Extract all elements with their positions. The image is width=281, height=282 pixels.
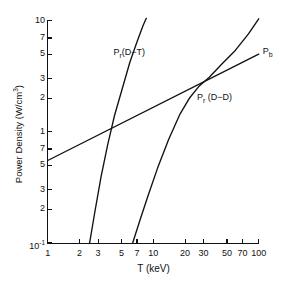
y-tick-mark [48, 209, 52, 210]
x-tick-mark [226, 239, 227, 243]
y-axis-title: Power Density (W/cm3) [12, 54, 24, 214]
x-tick-mark [185, 239, 186, 243]
y-tick-mark [48, 20, 52, 21]
y-tick-mark [48, 78, 52, 79]
x-tick-mark [153, 239, 154, 243]
x-tick-mark [79, 239, 80, 243]
x-tick-mark [121, 239, 122, 243]
curve-label-pb: Pb [263, 46, 273, 60]
chart-figure: 1075321753210-1 123571020305070100 Pr(D−… [0, 0, 281, 282]
x-tick-mark [242, 239, 243, 243]
x-axis-title: T (keV) [48, 263, 259, 274]
x-tick-mark [203, 239, 204, 243]
y-tick-mark [48, 98, 52, 99]
y-tick-mark [48, 242, 52, 243]
y-tick-mark [48, 131, 52, 132]
x-tick-mark [98, 239, 99, 243]
x-tick-label: 100 [245, 249, 273, 258]
x-tick-mark [136, 239, 137, 243]
y-tick-mark [48, 37, 52, 38]
y-tick-mark [48, 189, 52, 190]
x-axis-line [47, 243, 259, 244]
y-tick-mark [48, 165, 52, 166]
curve-label-pr-d-d: Pr (D−D) [197, 92, 232, 106]
curve-label-pr-d-t: Pr(D−T) [114, 47, 146, 61]
x-tick-mark [47, 239, 48, 243]
x-tick-label: 1 [34, 249, 62, 258]
x-tick-label: 10 [139, 249, 167, 258]
curve-pr-d-d [133, 19, 259, 243]
x-tick-mark [258, 239, 259, 243]
y-tick-mark [48, 54, 52, 55]
curve-pb [48, 54, 259, 160]
y-axis-title-wrap: Power Density (W/cm3) [0, 0, 20, 282]
y-tick-mark [48, 148, 52, 149]
